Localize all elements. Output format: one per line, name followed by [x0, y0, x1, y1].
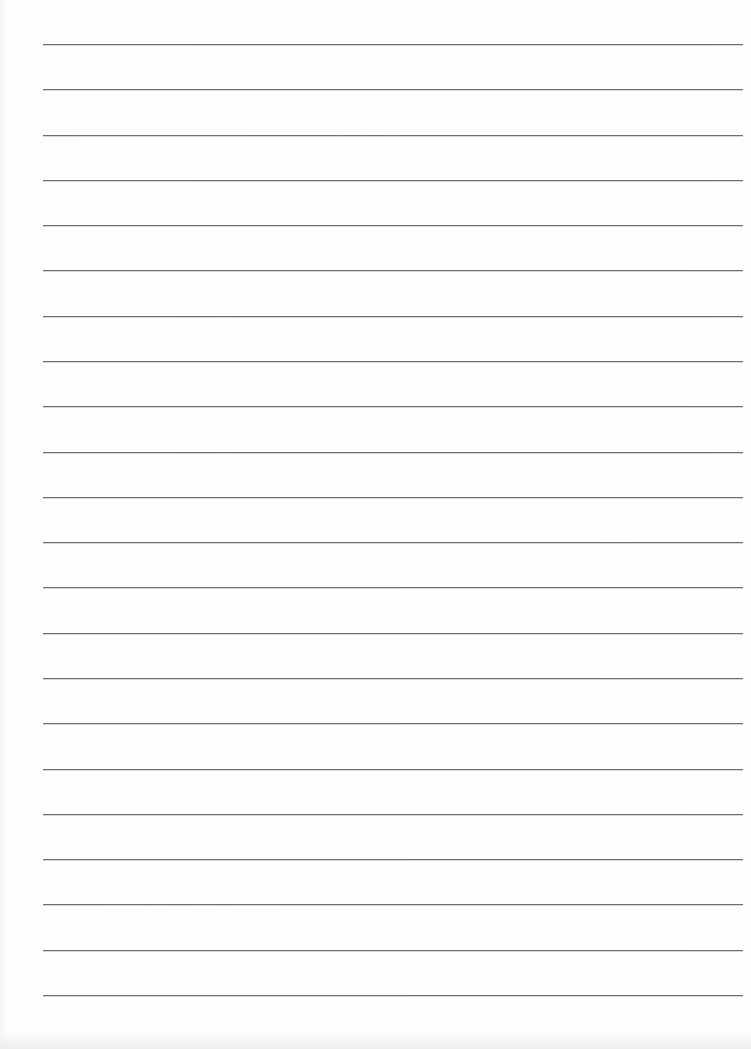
ruled-line	[43, 904, 743, 905]
ruled-line	[43, 89, 743, 90]
ruled-line	[43, 723, 743, 724]
ruled-line	[43, 678, 743, 679]
ruled-line	[43, 950, 743, 951]
ruled-line	[43, 859, 743, 860]
ruled-line	[43, 633, 743, 634]
ruled-line	[43, 270, 743, 271]
ruled-line	[43, 44, 743, 45]
ruled-line	[43, 452, 743, 453]
ruled-line	[43, 497, 743, 498]
ruled-line	[43, 180, 743, 181]
lined-paper-page	[0, 0, 751, 1049]
ruled-line	[43, 542, 743, 543]
ruled-line	[43, 995, 743, 996]
ruled-line	[43, 814, 743, 815]
ruled-line	[43, 225, 743, 226]
ruled-line	[43, 406, 743, 407]
ruled-line	[43, 316, 743, 317]
ruled-line	[43, 769, 743, 770]
ruled-line	[43, 135, 743, 136]
ruled-line	[43, 587, 743, 588]
ruled-line	[43, 361, 743, 362]
page-bottom-edge	[0, 1030, 751, 1049]
